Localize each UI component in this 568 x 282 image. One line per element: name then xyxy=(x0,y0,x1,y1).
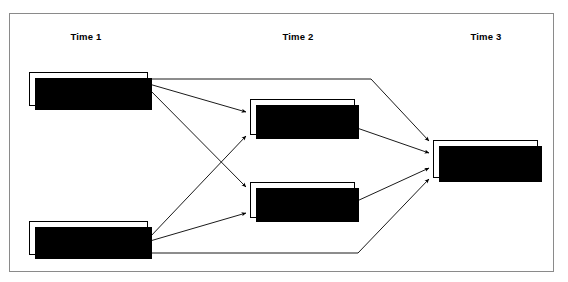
edge-disposition-to-deviantbehavior-t3 xyxy=(357,128,429,153)
node-label-self-rejection: Self-Rejection xyxy=(56,83,121,95)
node-label-deviant-behavior-time3: Deviant Behavior xyxy=(464,147,508,171)
edge-deviantbehavior-t1-to-disposition xyxy=(150,136,246,237)
node-deviant-behavior-time3[interactable]: Deviant Behavior xyxy=(433,140,538,178)
edge-selfrejection-to-deviantpeers xyxy=(149,89,246,187)
figure-root: Time 1 Time 2 Time 3 Self-Rejection xyxy=(0,0,568,282)
edge-deviantbehavior-t1-to-deviantpeers xyxy=(150,213,246,241)
node-label-deviant-peer-associations: Deviant Peer Associations xyxy=(272,188,333,212)
node-label-line-2: to Deviance xyxy=(277,117,327,128)
node-deviant-peer-associations[interactable]: Deviant Peer Associations xyxy=(250,182,355,218)
node-label-line-2: Behavior xyxy=(467,159,505,170)
node-deviant-behavior-time1[interactable]: Deviant Behavior xyxy=(29,221,148,255)
node-self-rejection[interactable]: Self-Rejection xyxy=(29,72,148,106)
edge-deviantpeers-to-deviantbehavior-t3 xyxy=(357,168,429,201)
node-label-line-1: Deviant xyxy=(469,147,501,158)
node-label-line-2: Associations xyxy=(276,200,329,211)
node-label-disposition-to-deviance: Disposition to Deviance xyxy=(274,105,330,129)
node-label-line-1: Disposition xyxy=(279,105,325,116)
node-label-line-1: Deviant Peer xyxy=(275,188,330,199)
node-disposition-to-deviance[interactable]: Disposition to Deviance xyxy=(250,99,355,135)
edge-selfrejection-to-disposition xyxy=(149,84,246,112)
node-label-deviant-behavior-time1: Deviant Behavior xyxy=(49,232,127,244)
